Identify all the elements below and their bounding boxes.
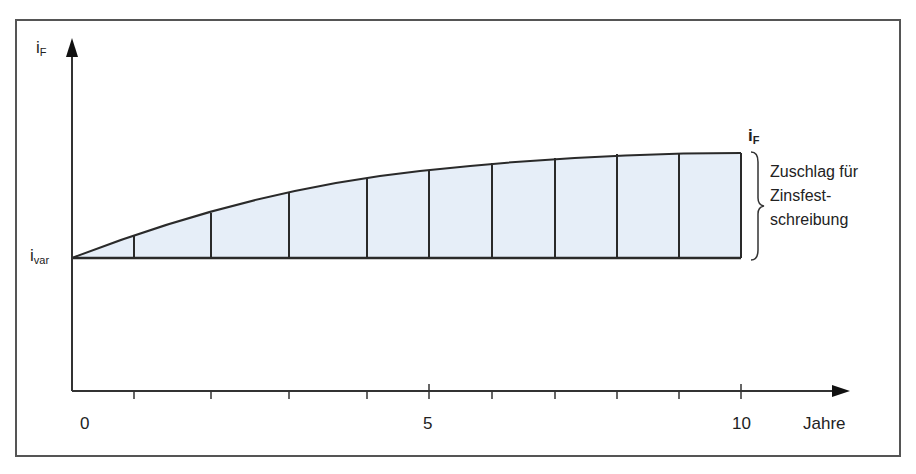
baseline-label: ivar xyxy=(30,246,49,266)
y-axis-label-sub: F xyxy=(40,46,47,58)
x-axis-label: Jahre xyxy=(803,414,846,434)
brace-note-line-2: Zinsfest- xyxy=(770,184,858,207)
y-axis-label: iF xyxy=(36,38,47,58)
curve-end-label: iF xyxy=(748,126,759,146)
premium-area xyxy=(72,153,741,258)
diagram-canvas xyxy=(0,0,916,474)
x-tick-label-10: 10 xyxy=(732,414,751,434)
brace-note: Zuschlag für Zinsfest- schreibung xyxy=(770,160,858,231)
x-tick-label-5: 5 xyxy=(423,414,432,434)
brace-note-line-3: schreibung xyxy=(770,208,858,231)
curve-end-label-sub: F xyxy=(753,134,760,146)
brace-note-line-1: Zuschlag für xyxy=(770,160,858,183)
brace-icon xyxy=(751,152,764,260)
y-axis-arrow-icon xyxy=(66,38,78,57)
baseline-label-sub: var xyxy=(34,254,49,266)
x-axis-arrow-icon xyxy=(832,385,850,397)
x-tick-label-0: 0 xyxy=(80,414,89,434)
